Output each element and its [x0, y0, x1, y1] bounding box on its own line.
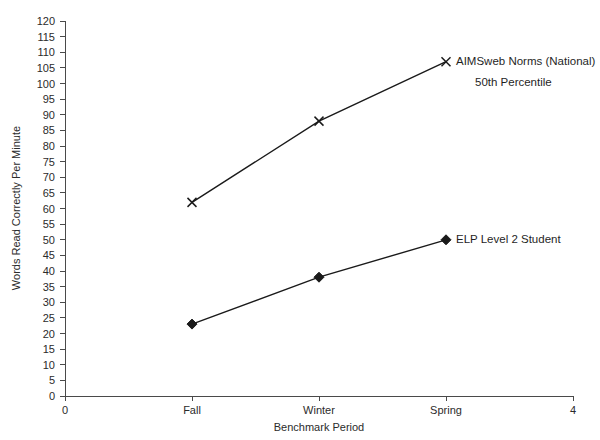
- y-tick-label: 50: [43, 234, 55, 246]
- series-elp-level-2-student: [187, 235, 451, 329]
- x-axis-ticks: [65, 396, 573, 401]
- x-axis-tick-labels: 0 Fall Winter Spring 4: [62, 404, 576, 416]
- y-tick-label: 40: [43, 265, 55, 277]
- y-tick-label: 45: [43, 249, 55, 261]
- data-point-aimsweb-fall: [188, 198, 197, 207]
- series-aimsweb-line: [192, 62, 446, 203]
- y-tick-label: 85: [43, 124, 55, 136]
- y-tick-label: 115: [37, 31, 55, 43]
- y-tick-label: 110: [37, 46, 55, 58]
- y-tick-label: 25: [43, 312, 55, 324]
- y-tick-label: 70: [43, 171, 55, 183]
- x-tick-label: Spring: [430, 404, 462, 416]
- annotation-elp: ELP Level 2 Student: [456, 233, 561, 245]
- line-chart: 120 115 110 105 100 95 90 85 80 75 70 65…: [0, 0, 600, 440]
- y-tick-label: 105: [37, 62, 55, 74]
- data-point-elp-winter: [314, 272, 324, 282]
- y-tick-label: 60: [43, 203, 55, 215]
- x-axis-title: Benchmark Period: [274, 421, 365, 433]
- data-point-elp-spring: [441, 235, 451, 245]
- y-tick-label: 120: [37, 15, 55, 27]
- y-tick-label: 0: [49, 390, 55, 402]
- y-tick-label: 100: [37, 78, 55, 90]
- x-tick-label: Fall: [183, 404, 201, 416]
- y-tick-label: 90: [43, 109, 55, 121]
- data-point-elp-fall: [187, 319, 197, 329]
- annotation-elp-line1: ELP Level 2 Student: [456, 233, 561, 245]
- y-tick-label: 5: [49, 374, 55, 386]
- annotation-aimsweb-line2: 50th Percentile: [475, 76, 552, 88]
- y-tick-label: 35: [43, 281, 55, 293]
- chart-container: 120 115 110 105 100 95 90 85 80 75 70 65…: [0, 0, 600, 440]
- y-tick-label: 80: [43, 140, 55, 152]
- y-tick-label: 95: [43, 93, 55, 105]
- series-aimsweb-norms: [188, 57, 451, 207]
- y-axis-tick-labels: 120 115 110 105 100 95 90 85 80 75 70 65…: [37, 15, 55, 402]
- annotation-aimsweb-line1: AIMSweb Norms (National): [456, 55, 595, 67]
- y-axis-title: Words Read Correctly Per Minute: [10, 126, 22, 290]
- y-tick-label: 55: [43, 218, 55, 230]
- y-tick-label: 15: [43, 343, 55, 355]
- y-tick-label: 20: [43, 328, 55, 340]
- y-tick-label: 10: [43, 359, 55, 371]
- data-point-aimsweb-winter: [315, 117, 324, 126]
- annotation-aimsweb: AIMSweb Norms (National) 50th Percentile: [456, 55, 595, 88]
- y-tick-label: 30: [43, 296, 55, 308]
- y-tick-label: 75: [43, 156, 55, 168]
- x-tick-label: Winter: [303, 404, 335, 416]
- x-tick-label: 4: [570, 404, 576, 416]
- y-axis-ticks: [60, 21, 65, 396]
- x-tick-label: 0: [62, 404, 68, 416]
- data-point-aimsweb-spring: [442, 57, 451, 66]
- y-tick-label: 65: [43, 187, 55, 199]
